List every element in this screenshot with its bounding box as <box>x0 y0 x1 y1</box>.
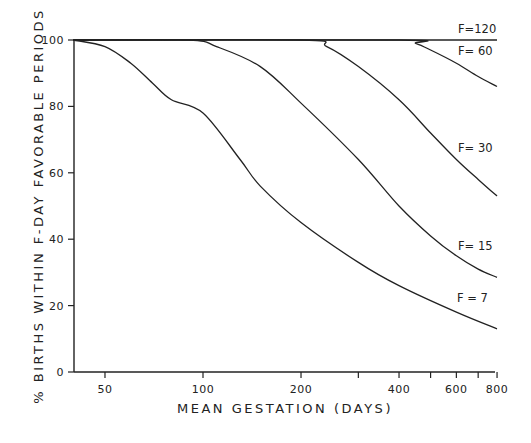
curve-labels: F=120F= 60F= 30F= 15F = 7 <box>457 22 496 305</box>
curve-f15 <box>73 40 497 278</box>
y-tick-label: 40 <box>49 233 64 246</box>
chart: 020406080100 50100200400600800 F=120F= 6… <box>0 0 531 443</box>
curves <box>73 40 497 329</box>
curve-label-f7: F = 7 <box>457 291 488 305</box>
axes <box>74 40 495 372</box>
y-tick-label: 80 <box>49 100 64 113</box>
curve-label-f15: F= 15 <box>458 239 493 253</box>
x-tick-label: 50 <box>97 383 112 396</box>
x-ticks: 50100200400600800 <box>97 372 508 396</box>
y-tick-label: 0 <box>57 366 65 379</box>
y-ticks: 020406080100 <box>42 34 75 379</box>
x-tick-label: 200 <box>290 383 313 396</box>
curve-label-f60: F= 60 <box>458 44 493 58</box>
x-tick-label: 400 <box>388 383 411 396</box>
curve-label-f30: F= 30 <box>458 141 493 155</box>
y-tick-label: 60 <box>49 167 64 180</box>
x-tick-label: 800 <box>486 383 509 396</box>
curve-f30 <box>73 40 497 196</box>
y-axis-title: % BIRTHS WITHIN F-DAY FAVORABLE PERIODS <box>31 8 46 404</box>
curve-f7 <box>73 40 497 329</box>
x-tick-label: 100 <box>192 383 215 396</box>
y-tick-label: 20 <box>49 300 64 313</box>
curve-f60 <box>73 40 497 87</box>
x-axis-title: MEAN GESTATION (DAYS) <box>177 401 393 416</box>
curve-label-f120: F=120 <box>458 22 496 36</box>
x-tick-label: 600 <box>445 383 468 396</box>
